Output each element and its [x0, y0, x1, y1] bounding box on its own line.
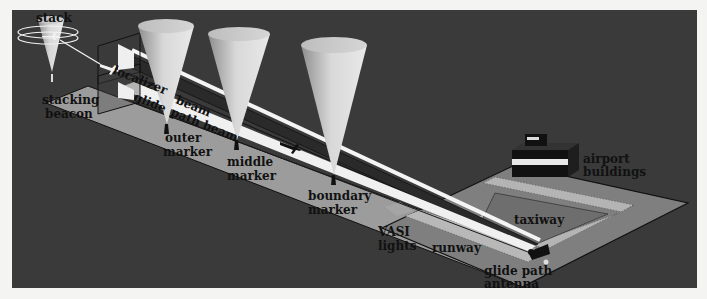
label-outer-marker: outer: [165, 131, 202, 145]
label-glide-path-antenna-2: antenna: [484, 277, 539, 291]
label-boundary-marker-2: marker: [308, 203, 358, 217]
label-stacking-beacon-2: beacon: [45, 107, 93, 121]
label-boundary-marker: boundary: [308, 189, 372, 203]
label-airport-buildings-2: buildings: [583, 165, 646, 179]
label-vasi: VASI: [377, 225, 410, 239]
label-airport-buildings: airport: [583, 152, 630, 166]
ils-diagram: stack stacking beacon localizer beam gli…: [0, 0, 707, 299]
label-middle-marker-2: marker: [227, 169, 277, 183]
label-runway: runway: [432, 241, 482, 255]
label-vasi-2: lights: [378, 239, 417, 253]
label-glide-path-antenna: glide path: [484, 264, 552, 278]
label-stack: stack: [36, 11, 72, 25]
label-taxiway: taxiway: [514, 213, 565, 227]
label-middle-marker: middle: [227, 155, 274, 169]
label-outer-marker-2: marker: [163, 145, 213, 159]
label-stacking-beacon: stacking: [42, 93, 100, 107]
